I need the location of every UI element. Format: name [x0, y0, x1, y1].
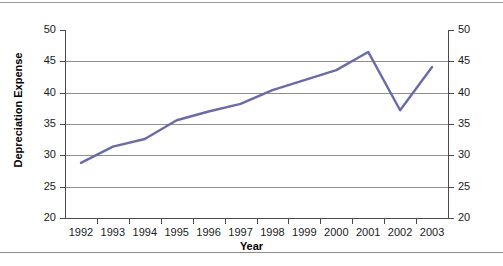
x-tick-9 — [352, 219, 353, 224]
x-label-1997: 1997 — [225, 226, 257, 238]
y-tick-right-50 — [449, 30, 454, 31]
y-label-left-45: 45 — [28, 55, 56, 66]
x-tick-8 — [320, 219, 321, 224]
y-label-left-35: 35 — [28, 118, 56, 129]
x-tick-1 — [97, 219, 98, 224]
x-label-1995: 1995 — [161, 226, 193, 238]
y-tick-right-25 — [449, 187, 454, 188]
y-tick-right-40 — [449, 93, 454, 94]
y-tick-left-35 — [60, 124, 65, 125]
page-rule-top — [0, 2, 503, 3]
gridline-30 — [65, 155, 448, 156]
y-tick-right-45 — [449, 61, 454, 62]
y-tick-right-30 — [449, 155, 454, 156]
y-axis-left-line — [65, 30, 66, 219]
y-tick-left-45 — [60, 61, 65, 62]
gridlines — [65, 30, 448, 218]
y-label-right-35: 35 — [458, 118, 486, 129]
x-label-1992: 1992 — [65, 226, 97, 238]
x-label-1996: 1996 — [193, 226, 225, 238]
x-label-1993: 1993 — [97, 226, 129, 238]
x-tick-6 — [257, 219, 258, 224]
y-label-right-40: 40 — [458, 87, 486, 98]
gridline-35 — [65, 124, 448, 125]
y-tick-right-20 — [449, 218, 454, 219]
x-label-1999: 1999 — [288, 226, 320, 238]
y-tick-left-50 — [60, 30, 65, 31]
x-label-2003: 2003 — [416, 226, 448, 238]
chart-figure: 50454035302520 50454035302520 1992199319… — [0, 0, 503, 266]
y-label-right-45: 45 — [458, 55, 486, 66]
x-label-2002: 2002 — [384, 226, 416, 238]
gridline-40 — [65, 93, 448, 94]
y-label-left-50: 50 — [28, 24, 56, 35]
y-label-right-25: 25 — [458, 181, 486, 192]
y-tick-left-20 — [60, 218, 65, 219]
y-label-right-50: 50 — [458, 24, 486, 35]
x-axis-title: Year — [0, 240, 503, 252]
y-label-left-30: 30 — [28, 149, 56, 160]
y-label-left-40: 40 — [28, 87, 56, 98]
y-axis-title: Depreciation Expense — [12, 40, 24, 180]
y-label-left-20: 20 — [28, 212, 56, 223]
gridline-45 — [65, 61, 448, 62]
x-label-1994: 1994 — [129, 226, 161, 238]
y-label-left-25: 25 — [28, 181, 56, 192]
gridline-25 — [65, 187, 448, 188]
y-label-right-30: 30 — [458, 149, 486, 160]
x-tick-7 — [288, 219, 289, 224]
x-tick-10 — [384, 219, 385, 224]
x-label-1998: 1998 — [257, 226, 289, 238]
y-tick-left-30 — [60, 155, 65, 156]
x-tick-5 — [225, 219, 226, 224]
x-tick-4 — [193, 219, 194, 224]
x-label-2001: 2001 — [352, 226, 384, 238]
x-tick-11 — [416, 219, 417, 224]
y-tick-right-35 — [449, 124, 454, 125]
x-tick-3 — [161, 219, 162, 224]
y-tick-left-40 — [60, 93, 65, 94]
y-tick-left-25 — [60, 187, 65, 188]
x-label-2000: 2000 — [320, 226, 352, 238]
y-label-right-20: 20 — [458, 212, 486, 223]
page-rule-bottom — [0, 252, 503, 253]
x-tick-2 — [129, 219, 130, 224]
